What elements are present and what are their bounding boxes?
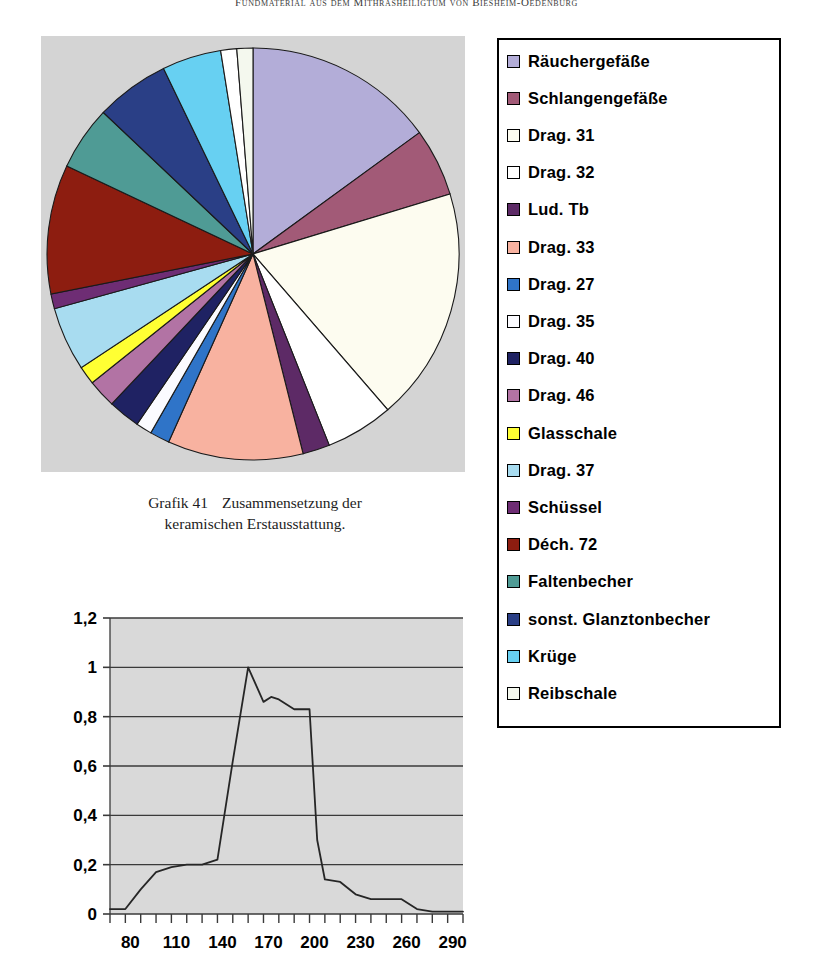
legend-item[interactable]: Reibschale bbox=[507, 682, 617, 704]
y-axis-tick-label: 1,2 bbox=[73, 609, 97, 628]
x-axis-tick-label: 80 bbox=[121, 933, 140, 952]
y-axis-tick-label: 1 bbox=[88, 658, 97, 677]
y-axis-tick-label: 0 bbox=[88, 905, 97, 924]
legend-item-label: Drag. 33 bbox=[528, 238, 595, 257]
legend-item-label: Räuchergefäße bbox=[528, 52, 650, 71]
y-axis-tick-label: 0,2 bbox=[73, 856, 97, 875]
caption-text-line1: Zusammensetzung der bbox=[222, 494, 362, 511]
legend-color-swatch bbox=[507, 650, 520, 663]
x-axis-tick-label: 110 bbox=[163, 933, 190, 952]
legend-item-label: Drag. 37 bbox=[528, 461, 595, 480]
legend-item-label: Schüssel bbox=[528, 498, 602, 517]
caption-figure-number: Grafik 41 bbox=[148, 494, 208, 511]
legend-item[interactable]: Drag. 46 bbox=[507, 385, 595, 407]
legend-color-swatch bbox=[507, 315, 520, 328]
legend-item[interactable]: Drag. 31 bbox=[507, 124, 595, 146]
legend-color-swatch bbox=[507, 241, 520, 254]
legend-item-label: Schlangengefäße bbox=[528, 89, 668, 108]
legend-item-label: Drag. 46 bbox=[528, 386, 595, 405]
legend-item-label: Faltenbecher bbox=[528, 572, 633, 591]
legend-color-swatch bbox=[507, 464, 520, 477]
legend-item-label: Drag. 32 bbox=[528, 163, 595, 182]
legend-item[interactable]: Lud. Tb bbox=[507, 199, 589, 221]
legend-color-swatch bbox=[507, 92, 520, 105]
legend-color-swatch bbox=[507, 687, 520, 700]
line-chart-svg: 00,20,40,60,811,280110140170200230260290 bbox=[53, 596, 473, 968]
legend-color-swatch bbox=[507, 166, 520, 179]
legend-color-swatch bbox=[507, 389, 520, 402]
page-root: Fundmaterial aus dem Mithrasheiligtum vo… bbox=[0, 0, 813, 973]
legend-item-label: Glasschale bbox=[528, 424, 617, 443]
legend-item[interactable]: Faltenbecher bbox=[507, 571, 633, 593]
legend-item-label: Reibschale bbox=[528, 684, 617, 703]
legend-item-label: Lud. Tb bbox=[528, 200, 589, 219]
legend-item-label: Drag. 31 bbox=[528, 126, 595, 145]
legend-item[interactable]: Krüge bbox=[507, 645, 577, 667]
legend-color-swatch bbox=[507, 427, 520, 440]
legend-color-swatch bbox=[507, 352, 520, 365]
x-axis-tick-label: 290 bbox=[438, 933, 466, 952]
line-chart-panel: 00,20,40,60,811,280110140170200230260290 bbox=[53, 596, 473, 968]
pie-chart-panel bbox=[41, 36, 465, 472]
x-axis-tick-label: 200 bbox=[300, 933, 328, 952]
legend-item-label: Drag. 40 bbox=[528, 349, 595, 368]
legend-item[interactable]: Räuchergefäße bbox=[507, 50, 650, 72]
pie-chart-legend: RäuchergefäßeSchlangengefäßeDrag. 31Drag… bbox=[497, 38, 781, 728]
legend-color-swatch bbox=[507, 129, 520, 142]
legend-item[interactable]: Schüssel bbox=[507, 496, 602, 518]
x-axis-tick-label: 260 bbox=[392, 933, 420, 952]
legend-item[interactable]: Drag. 32 bbox=[507, 162, 595, 184]
legend-color-swatch bbox=[507, 278, 520, 291]
running-header: Fundmaterial aus dem Mithrasheiligtum vo… bbox=[0, 0, 813, 8]
legend-color-swatch bbox=[507, 55, 520, 68]
legend-item-label: sonst. Glanztonbecher bbox=[528, 610, 710, 629]
legend-item[interactable]: Glasschale bbox=[507, 422, 617, 444]
pie-chart-svg bbox=[41, 36, 465, 472]
y-axis-tick-label: 0,8 bbox=[73, 708, 97, 727]
y-axis-tick-label: 0,4 bbox=[73, 806, 97, 825]
legend-color-swatch bbox=[507, 538, 520, 551]
legend-color-swatch bbox=[507, 575, 520, 588]
legend-color-swatch bbox=[507, 613, 520, 626]
x-axis-tick-label: 230 bbox=[346, 933, 374, 952]
legend-item[interactable]: Schlangengefäße bbox=[507, 87, 668, 109]
legend-item-label: Déch. 72 bbox=[528, 535, 597, 554]
legend-color-swatch bbox=[507, 501, 520, 514]
y-axis-tick-label: 0,6 bbox=[73, 757, 97, 776]
caption-text-line2: keramischen Erstausstattung. bbox=[165, 515, 346, 532]
legend-item[interactable]: Drag. 40 bbox=[507, 348, 595, 370]
legend-item[interactable]: sonst. Glanztonbecher bbox=[507, 608, 710, 630]
legend-item[interactable]: Drag. 33 bbox=[507, 236, 595, 258]
legend-item[interactable]: Drag. 35 bbox=[507, 310, 595, 332]
legend-item-label: Drag. 27 bbox=[528, 275, 595, 294]
legend-item-label: Krüge bbox=[528, 647, 577, 666]
legend-item[interactable]: Déch. 72 bbox=[507, 534, 597, 556]
x-axis-tick-label: 170 bbox=[254, 933, 282, 952]
legend-color-swatch bbox=[507, 203, 520, 216]
legend-item[interactable]: Drag. 37 bbox=[507, 459, 595, 481]
legend-item-label: Drag. 35 bbox=[528, 312, 595, 331]
pie-chart-caption: Grafik 41Zusammensetzung der keramischen… bbox=[30, 492, 480, 534]
x-axis-tick-label: 140 bbox=[208, 933, 236, 952]
legend-item[interactable]: Drag. 27 bbox=[507, 273, 595, 295]
